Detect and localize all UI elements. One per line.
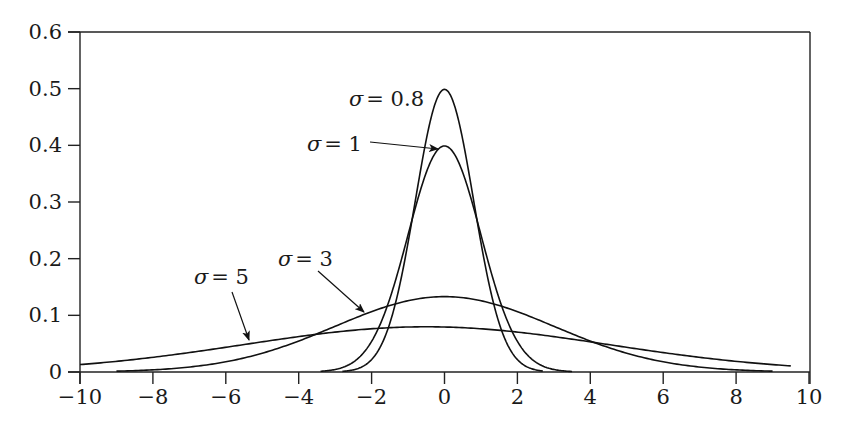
curves xyxy=(80,89,791,371)
sigma-symbol: σ xyxy=(278,247,293,271)
annotation-label: σ= 3 xyxy=(278,247,333,271)
x-tick-label: 0 xyxy=(438,385,451,409)
x-tick-label: 10 xyxy=(796,385,823,409)
annotation-label: σ= 5 xyxy=(194,265,249,289)
sigma-value: = 1 xyxy=(324,132,362,156)
curve-sigma-3 xyxy=(116,297,772,372)
sigma-symbol: σ xyxy=(307,132,322,156)
x-tick-label: −2 xyxy=(356,385,387,409)
y-tick-label: 0.5 xyxy=(29,77,62,101)
x-tick-label: −4 xyxy=(283,385,314,409)
axes xyxy=(68,32,810,384)
sigma-value: = 3 xyxy=(295,247,333,271)
gaussian-chart: 00.10.20.30.40.50.6 −10−8−6−4−20246810 σ… xyxy=(0,0,842,434)
x-tick-label: 4 xyxy=(584,385,597,409)
x-tick-label: −10 xyxy=(58,385,102,409)
y-tick-label: 0.4 xyxy=(29,133,62,157)
curve-sigma-5 xyxy=(80,327,791,366)
annotation-arrow xyxy=(232,292,249,340)
x-tick-label: −6 xyxy=(210,385,241,409)
x-tick-label: 6 xyxy=(657,385,670,409)
x-ticks: −10−8−6−4−20246810 xyxy=(58,372,823,409)
y-tick-label: 0.1 xyxy=(29,303,62,327)
curve-sigma-1 xyxy=(321,146,573,372)
y-tick-label: 0.3 xyxy=(29,190,62,214)
annotation-label: σ= 0.8 xyxy=(349,87,424,111)
y-tick-label: 0.6 xyxy=(29,20,62,44)
x-tick-label: −8 xyxy=(137,385,168,409)
y-tick-label: 0.2 xyxy=(29,247,62,271)
y-ticks: 00.10.20.30.40.50.6 xyxy=(29,20,80,384)
annotation-arrow xyxy=(370,142,438,149)
annotation-label: σ= 1 xyxy=(307,132,362,156)
annotation-arrow xyxy=(318,271,364,312)
x-tick-label: 8 xyxy=(729,385,742,409)
sigma-value: = 5 xyxy=(211,265,249,289)
sigma-symbol: σ xyxy=(349,87,364,111)
y-tick-label: 0 xyxy=(49,360,62,384)
sigma-value: = 0.8 xyxy=(366,87,424,111)
sigma-symbol: σ xyxy=(194,265,209,289)
x-tick-label: 2 xyxy=(511,385,524,409)
